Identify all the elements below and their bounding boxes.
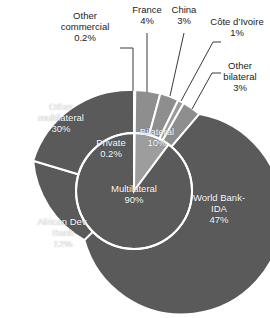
- label-cote-divoire-value: 1%: [204, 27, 270, 38]
- label-other-commercial-line2: commercial: [48, 21, 122, 32]
- label-private-value: 0.2%: [83, 148, 139, 159]
- label-african-dev-bank-line2: Bank: [25, 227, 101, 238]
- label-world-bank-ida-value: 47%: [183, 214, 255, 225]
- label-african-dev-bank: African Dev. Bank 12%: [25, 216, 101, 249]
- label-cote-divoire: Côte d’Ivoire 1%: [204, 16, 270, 38]
- label-other-bilateral-line2: bilateral: [212, 71, 268, 82]
- label-multilateral: Multilateral 90%: [91, 183, 177, 205]
- pie-chart: Other commercial 0.2% France 4% China 3%…: [0, 0, 270, 318]
- leader-line-china: [170, 33, 184, 96]
- label-other-multilateral-line1: Other: [22, 101, 100, 112]
- label-other-bilateral-value: 3%: [212, 82, 268, 93]
- label-bilateral-line1: Bilateral: [126, 126, 188, 137]
- leader-line-other-bilateral: [192, 73, 212, 109]
- label-african-dev-bank-line1: African Dev.: [25, 216, 101, 227]
- label-china-value: 3%: [161, 15, 207, 26]
- label-multilateral-line1: Multilateral: [91, 183, 177, 194]
- label-world-bank-ida: World Bank- IDA 47%: [183, 192, 255, 225]
- label-other-commercial: Other commercial 0.2%: [48, 10, 122, 43]
- label-multilateral-value: 90%: [91, 194, 177, 205]
- label-african-dev-bank-value: 12%: [25, 238, 101, 249]
- label-other-bilateral-line1: Other: [212, 60, 268, 71]
- label-other-commercial-line1: Other: [48, 10, 122, 21]
- label-other-multilateral-line2: multilateral: [22, 112, 100, 123]
- donut-chart-svg: [0, 0, 270, 318]
- label-private-line1: Private: [83, 137, 139, 148]
- label-world-bank-ida-line2: IDA: [183, 203, 255, 214]
- label-cote-divoire-line1: Côte d’Ivoire: [204, 16, 270, 27]
- label-world-bank-ida-line1: World Bank-: [183, 192, 255, 203]
- label-china-line1: China: [161, 4, 207, 15]
- label-other-bilateral: Other bilateral 3%: [212, 60, 268, 93]
- label-china: China 3%: [161, 4, 207, 26]
- label-other-commercial-value: 0.2%: [48, 32, 122, 43]
- leader-line-cote-divoire: [181, 42, 213, 101]
- label-other-multilateral-value: 30%: [22, 123, 100, 134]
- label-other-multilateral: Other multilateral 30%: [22, 101, 100, 134]
- label-private: Private 0.2%: [83, 137, 139, 159]
